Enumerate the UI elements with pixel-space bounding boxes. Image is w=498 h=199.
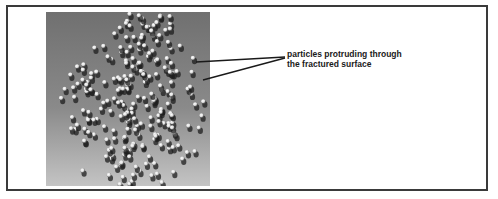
annotation-line-2: the fractured surface: [287, 59, 402, 69]
micrograph-image: [46, 12, 210, 186]
annotation-label: particles protruding through the fractur…: [287, 49, 402, 69]
micrograph-svg: [46, 12, 210, 186]
annotation-line-1: particles protruding through: [287, 49, 402, 59]
